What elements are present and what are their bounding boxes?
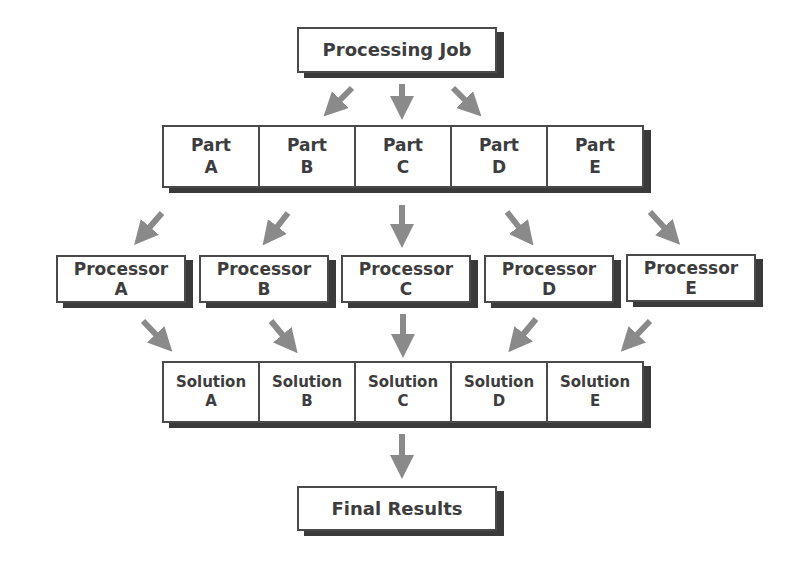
part-c-label: Part [383,135,423,156]
processor-c-label: Processor [359,259,453,279]
arrow-part-b-to-processor-b [270,213,288,236]
processor-a-label: Processor [74,259,168,279]
arrow-processor-a-to-solution-a [143,321,164,343]
processing-job-label: Processing Job [323,39,472,61]
solution-a: Solution A [164,363,260,421]
arrow-processor-b-to-solution-b [271,321,290,344]
solution-c-label: Solution [368,373,438,392]
part-d: Part D [452,127,548,186]
final-results-box: Final Results [297,486,497,531]
part-c-letter: C [397,157,409,178]
processor-d-letter: D [542,279,556,299]
solution-b-letter: B [301,392,312,411]
solution-d-letter: D [493,392,505,411]
part-c: Part C [356,127,452,186]
part-d-letter: D [492,157,506,178]
processor-d-box: Processor D [484,255,614,303]
part-b: Part B [260,127,356,186]
arrow-job-to-parts-right [453,88,473,108]
processor-b-label: Processor [217,259,311,279]
processor-b-letter: B [258,279,271,299]
solution-e-label: Solution [560,373,630,392]
part-a-label: Part [191,135,231,156]
processor-c-letter: C [400,279,412,299]
part-e-label: Part [575,135,615,156]
final-results-label: Final Results [332,498,463,520]
processor-e-letter: E [685,278,697,298]
solution-b: Solution B [260,363,356,421]
part-b-letter: B [301,157,314,178]
parts-row: Part A Part B Part C Part D Part E [162,125,644,188]
arrow-processor-e-to-solution-e [629,321,650,343]
solution-c: Solution C [356,363,452,421]
solution-d: Solution D [452,363,548,421]
processor-b-box: Processor B [199,255,329,303]
processing-job-box: Processing Job [297,27,497,73]
part-e-letter: E [589,157,601,178]
processor-c-box: Processor C [341,255,471,303]
processor-d-label: Processor [502,259,596,279]
processor-a-box: Processor A [56,255,186,303]
solution-e-letter: E [590,392,600,411]
solution-e: Solution E [548,363,642,421]
part-a-letter: A [204,157,217,178]
part-e: Part E [548,127,642,186]
processor-a-letter: A [114,279,127,299]
arrow-part-d-to-processor-d [507,212,526,236]
solution-d-label: Solution [464,373,534,392]
solutions-row: Solution A Solution B Solution C Solutio… [162,361,644,423]
part-b-label: Part [287,135,327,156]
arrow-processor-d-to-solution-d [516,319,536,343]
processor-e-label: Processor [644,258,738,278]
arrow-part-e-to-processor-e [650,212,672,236]
part-a: Part A [164,127,260,186]
part-d-label: Part [479,135,519,156]
solution-a-label: Solution [176,373,246,392]
solution-b-label: Solution [272,373,342,392]
processor-e-box: Processor E [626,254,756,302]
arrow-part-a-to-processor-a [142,213,162,236]
solution-c-letter: C [397,392,408,411]
arrow-job-to-parts-left [332,88,352,108]
solution-a-letter: A [205,392,217,411]
